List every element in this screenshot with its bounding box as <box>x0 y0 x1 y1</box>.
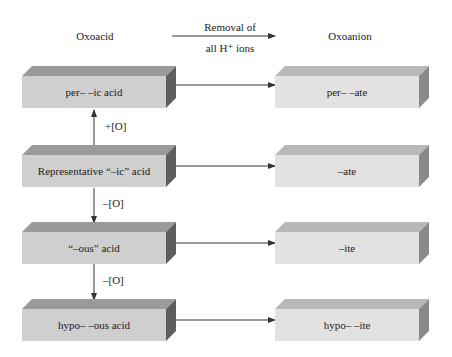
anion-label: hypo– –ite <box>275 309 419 341</box>
add-oxygen-label: +[O] <box>105 120 126 132</box>
anion-label: –ate <box>275 155 419 187</box>
acid-label: per– –ic acid <box>22 76 166 108</box>
acid-label: “–ous” acid <box>22 232 166 264</box>
acid-label: Representative “–ic” acid <box>22 155 166 187</box>
acid-label: hypo– –ous acid <box>22 309 166 341</box>
remove-oxygen-label-1: –[O] <box>103 197 124 209</box>
anion-label: per– –ate <box>275 76 419 108</box>
remove-oxygen-label-2: –[O] <box>103 274 124 286</box>
anion-label: –ite <box>275 232 419 264</box>
